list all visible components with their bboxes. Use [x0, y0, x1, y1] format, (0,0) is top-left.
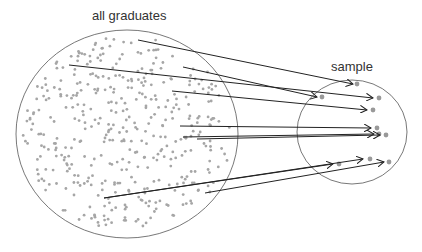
population-dot: [81, 110, 84, 113]
population-dot: [86, 180, 89, 183]
population-dot: [173, 93, 176, 96]
population-dot: [90, 184, 93, 187]
population-dot: [166, 99, 169, 102]
population-dot: [149, 217, 152, 220]
population-dot: [39, 155, 42, 158]
population-dot: [180, 138, 183, 141]
population-dot: [55, 62, 58, 65]
population-dot: [76, 59, 79, 62]
population-dot: [54, 149, 57, 152]
population-dot: [152, 135, 155, 138]
population-dot: [60, 154, 63, 157]
population-dot: [128, 161, 131, 164]
population-dot: [158, 179, 161, 182]
population-dot: [172, 214, 175, 217]
population-dot: [70, 97, 73, 100]
sample-dot: [387, 160, 392, 165]
population-dot: [169, 77, 172, 80]
population-dot: [128, 116, 131, 119]
population-dot: [103, 214, 106, 217]
population-dot: [127, 79, 130, 82]
population-dot: [104, 88, 107, 91]
population-dot: [110, 101, 113, 104]
population-dot: [137, 165, 140, 168]
population-dot: [74, 68, 77, 71]
sample-dots: [320, 82, 392, 167]
population-dot: [190, 149, 193, 152]
population-dot: [150, 83, 153, 86]
population-dot: [211, 88, 214, 91]
population-dot: [120, 97, 123, 100]
population-dot: [37, 173, 40, 176]
population-dot: [65, 106, 68, 109]
population-dot: [78, 119, 81, 122]
population-dot: [154, 39, 157, 42]
population-dot: [101, 189, 104, 192]
population-dot: [115, 102, 118, 105]
population-dot: [110, 127, 113, 130]
population-dot: [182, 193, 185, 196]
population-dot: [140, 139, 143, 142]
population-dot: [62, 66, 65, 69]
population-dot: [147, 122, 150, 125]
population-dot: [217, 166, 220, 169]
population-dot: [118, 131, 121, 134]
population-dot: [60, 79, 63, 82]
population-dot: [66, 94, 69, 97]
population-dot: [105, 223, 108, 226]
population-dot: [198, 83, 201, 86]
population-dot: [96, 89, 99, 92]
population-dot: [104, 137, 107, 140]
population-dot: [115, 111, 118, 114]
population-dot: [44, 77, 47, 80]
population-dot: [89, 73, 92, 76]
population-dot: [212, 117, 215, 120]
population-dot: [114, 191, 117, 194]
population-dot: [144, 130, 147, 133]
population-dot: [111, 67, 114, 70]
population-dot: [141, 67, 144, 70]
population-dot: [108, 201, 111, 204]
population-dot: [138, 91, 141, 94]
population-dot: [153, 113, 156, 116]
population-dot: [130, 176, 133, 179]
population-dot: [176, 183, 179, 186]
population-dot: [210, 118, 213, 121]
population-dot: [83, 103, 86, 106]
population-dot: [87, 177, 90, 180]
population-dot: [145, 222, 148, 225]
population-dot: [150, 116, 153, 119]
population-dot: [108, 139, 111, 142]
population-dot: [43, 146, 46, 149]
population-dot: [72, 94, 75, 97]
population-dot: [110, 221, 113, 224]
population-dot: [47, 148, 50, 151]
population-dot: [113, 181, 116, 184]
sample-dot: [377, 132, 382, 137]
population-dot: [125, 206, 128, 209]
population-dot: [185, 202, 188, 205]
population-dot: [208, 86, 211, 89]
population-dot: [114, 74, 117, 77]
population-dot: [154, 94, 157, 97]
population-dot: [65, 162, 68, 165]
population-dot: [44, 189, 47, 192]
population-dot: [87, 83, 90, 86]
sampling-arrow: [205, 162, 384, 193]
population-dots: [22, 37, 231, 227]
population-dot: [53, 120, 56, 123]
population-dot: [48, 97, 51, 100]
population-dot: [146, 166, 149, 169]
population-dot: [145, 142, 148, 145]
population-dot: [80, 140, 83, 143]
population-dot: [188, 84, 191, 87]
population-dot: [103, 219, 106, 222]
population-dot: [42, 95, 45, 98]
population-dot: [64, 209, 67, 212]
population-dot: [37, 179, 40, 182]
population-dot: [97, 221, 100, 224]
population-dot: [144, 80, 147, 83]
population-dot: [197, 133, 200, 136]
population-dot: [76, 103, 79, 106]
population-dot: [99, 117, 102, 120]
